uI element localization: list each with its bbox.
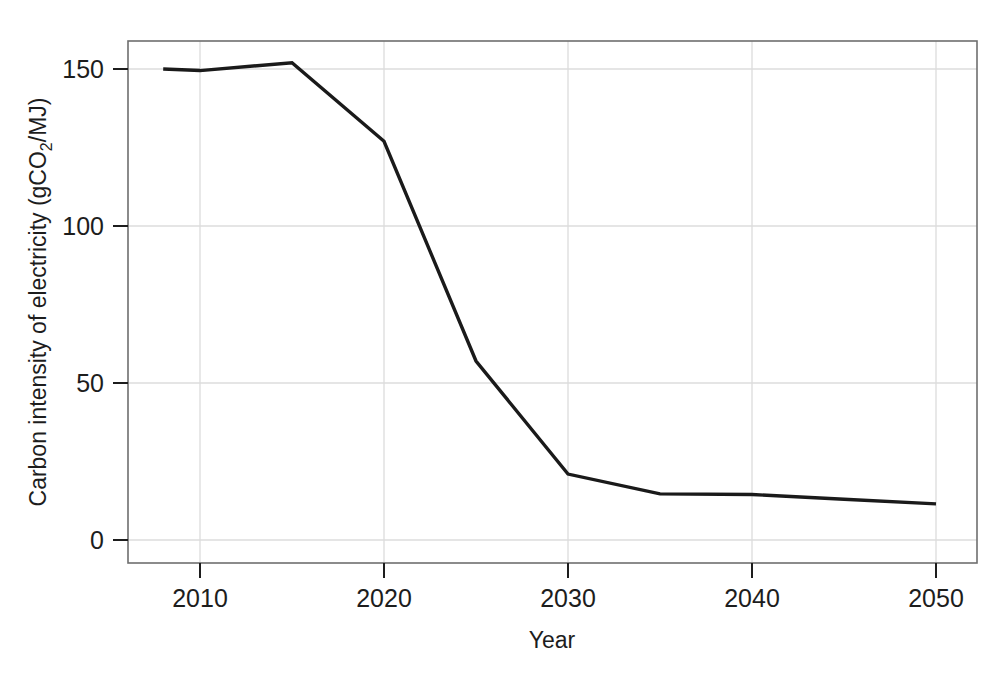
y-tick-label-150: 150 — [62, 55, 104, 83]
x-tick-label-2050: 2050 — [908, 584, 964, 612]
line-chart: 0 50 100 150 2010 2020 2030 2040 2050 Ye… — [0, 0, 1007, 675]
y-tick-label-50: 50 — [76, 369, 104, 397]
y-tick-labels: 0 50 100 150 — [62, 55, 104, 554]
x-tick-label-2010: 2010 — [172, 584, 228, 612]
x-tick-marks — [200, 563, 936, 578]
x-tick-labels: 2010 2020 2030 2040 2050 — [172, 584, 964, 612]
y-axis-title: Carbon intensity of electricity (gCO2/MJ… — [25, 98, 55, 507]
y-axis-title-post: /MJ) — [25, 98, 51, 143]
y-tick-marks — [113, 69, 128, 540]
y-axis-title-subscript: 2 — [38, 142, 55, 151]
x-tick-label-2030: 2030 — [540, 584, 596, 612]
x-axis-title: Year — [529, 627, 576, 653]
chart-figure: 0 50 100 150 2010 2020 2030 2040 2050 Ye… — [0, 0, 1007, 675]
x-tick-label-2040: 2040 — [724, 584, 780, 612]
y-tick-label-100: 100 — [62, 212, 104, 240]
x-tick-label-2020: 2020 — [356, 584, 412, 612]
plot-area-background — [128, 41, 977, 563]
y-tick-label-0: 0 — [90, 526, 104, 554]
y-axis-title-pre: Carbon intensity of electricity (gCO — [25, 151, 51, 506]
